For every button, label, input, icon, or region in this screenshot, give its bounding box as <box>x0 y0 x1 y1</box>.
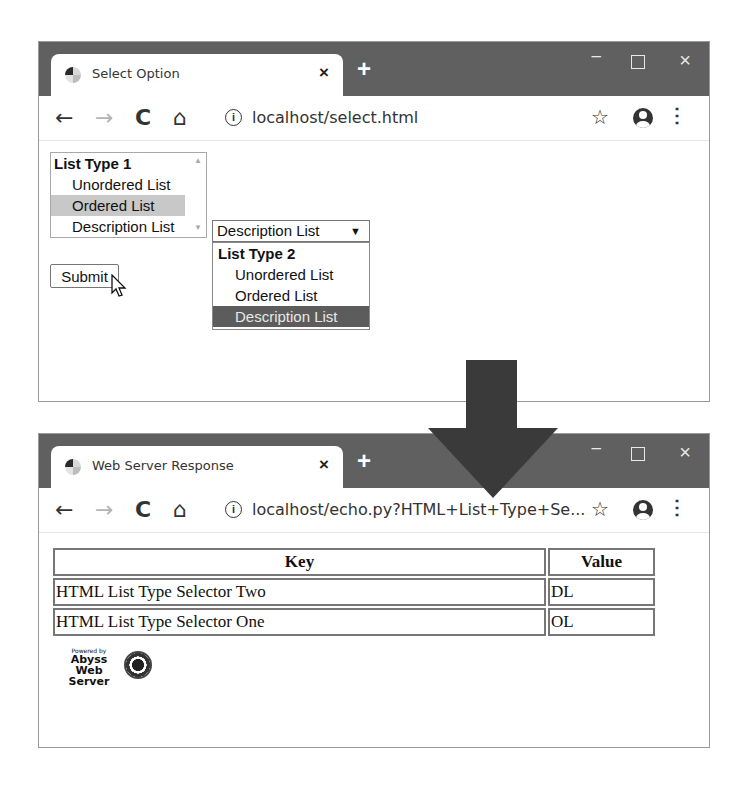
browser-toolbar: ← → C ⌂ i localhost/echo.py?HTML+List+Ty… <box>39 488 709 533</box>
abyss-spiral-logo-icon <box>124 651 152 679</box>
cell-key: HTML List Type Selector One <box>53 608 546 636</box>
address-bar[interactable]: localhost/select.html <box>252 108 418 127</box>
favicon-icon <box>65 459 81 475</box>
list-type-2-select[interactable]: Description List ▼ <box>212 220 370 242</box>
dropdown-option-ordered[interactable]: Ordered List <box>213 285 369 306</box>
badge-text: Powered by Abyss Web Server <box>54 648 124 687</box>
tab-close-icon[interactable]: × <box>319 455 329 475</box>
browser-window-select: Select Option × + – × ← → C ⌂ i localhos… <box>38 41 710 402</box>
address-bar[interactable]: localhost/echo.py?HTML+List+Type+Se... <box>252 500 585 519</box>
listbox-option-unordered[interactable]: Unordered List <box>51 174 206 195</box>
browser-toolbar: ← → C ⌂ i localhost/select.html ☆ ⋮ <box>39 96 709 141</box>
select-value: Description List <box>217 222 320 239</box>
header-value: Value <box>548 548 655 576</box>
optgroup-label: List Type 1 <box>51 153 206 174</box>
minimize-button[interactable]: – <box>592 46 601 66</box>
table-row: HTML List Type Selector Two DL <box>53 578 655 606</box>
powered-by-abyss-badge[interactable]: Powered by Abyss Web Server <box>54 648 164 684</box>
profile-avatar-icon[interactable] <box>633 500 653 520</box>
optgroup-label: List Type 2 <box>213 243 369 264</box>
kebab-menu-icon[interactable]: ⋮ <box>667 497 687 517</box>
mouse-pointer-icon <box>111 274 127 298</box>
forward-arrow-icon[interactable]: → <box>95 105 113 130</box>
page-content: List Type 1 Unordered List Ordered List … <box>39 141 709 401</box>
close-window-button[interactable]: × <box>679 49 691 72</box>
back-arrow-icon[interactable]: ← <box>55 497 73 522</box>
header-key: Key <box>53 548 546 576</box>
page-content: Key Value HTML List Type Selector Two DL… <box>39 533 709 747</box>
dropdown-arrow-icon: ▼ <box>350 221 361 241</box>
close-window-button[interactable]: × <box>679 441 691 464</box>
table-row: HTML List Type Selector One OL <box>53 608 655 636</box>
browser-window-response: Web Server Response × + – × ← → C ⌂ i lo… <box>38 433 710 748</box>
maximize-button[interactable] <box>631 447 645 461</box>
bookmark-star-icon[interactable]: ☆ <box>591 105 609 129</box>
minimize-button[interactable]: – <box>592 438 601 458</box>
bookmark-star-icon[interactable]: ☆ <box>591 497 609 521</box>
scroll-down-icon[interactable]: ▼ <box>194 223 202 232</box>
table-header-row: Key Value <box>53 548 655 576</box>
tab-web-server-response[interactable]: Web Server Response × <box>51 446 343 488</box>
kebab-menu-icon[interactable]: ⋮ <box>667 105 687 125</box>
tab-title: Web Server Response <box>92 458 234 473</box>
tab-title: Select Option <box>92 66 180 81</box>
submit-button[interactable]: Submit <box>50 264 119 288</box>
info-icon[interactable]: i <box>225 109 242 126</box>
forward-arrow-icon[interactable]: → <box>95 497 113 522</box>
title-bar: Select Option × + – × <box>39 42 709 96</box>
scroll-up-icon[interactable]: ▲ <box>194 156 202 165</box>
new-tab-button[interactable]: + <box>357 447 371 475</box>
cell-value: DL <box>548 578 655 606</box>
info-icon[interactable]: i <box>225 501 242 518</box>
title-bar: Web Server Response × + – × <box>39 434 709 488</box>
key-value-table: Key Value HTML List Type Selector Two DL… <box>51 546 657 638</box>
home-icon[interactable]: ⌂ <box>173 105 187 130</box>
profile-avatar-icon[interactable] <box>633 108 653 128</box>
new-tab-button[interactable]: + <box>357 55 371 83</box>
back-arrow-icon[interactable]: ← <box>55 105 73 130</box>
reload-icon[interactable]: C <box>135 105 151 130</box>
badge-line2: Web Server <box>54 665 124 687</box>
dropdown-option-unordered[interactable]: Unordered List <box>213 264 369 285</box>
listbox-option-description[interactable]: Description List <box>51 216 206 237</box>
list-type-1-listbox[interactable]: List Type 1 Unordered List Ordered List … <box>50 152 207 238</box>
tab-select-option[interactable]: Select Option × <box>51 54 343 96</box>
reload-icon[interactable]: C <box>135 497 151 522</box>
maximize-button[interactable] <box>631 55 645 69</box>
favicon-icon <box>65 67 81 83</box>
home-icon[interactable]: ⌂ <box>173 497 187 522</box>
dropdown-option-description[interactable]: Description List <box>213 306 369 327</box>
listbox-option-ordered[interactable]: Ordered List <box>51 195 185 216</box>
cell-key: HTML List Type Selector Two <box>53 578 546 606</box>
down-arrow-icon <box>428 360 558 498</box>
cell-value: OL <box>548 608 655 636</box>
select-dropdown-popup: List Type 2 Unordered List Ordered List … <box>212 242 370 330</box>
tab-close-icon[interactable]: × <box>319 63 329 83</box>
